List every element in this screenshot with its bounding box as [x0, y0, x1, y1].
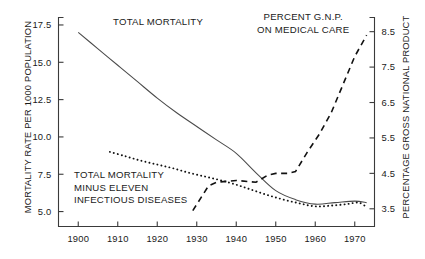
bottom-tick-label: 1940: [225, 233, 247, 244]
right-tick-label: 7.5: [382, 61, 396, 72]
annotation-mortality-minus-infectious: TOTAL MORTALITY MINUS ELEVEN INFECTIOUS …: [74, 169, 188, 207]
right-axis: 3.54.55.56.57.58.5: [370, 18, 396, 227]
left-axis-spine: [59, 18, 64, 227]
left-tick-label: 15.0: [32, 57, 51, 68]
bottom-tick-label: 1920: [146, 233, 168, 244]
bottom-tick-label: 1930: [186, 233, 208, 244]
annotation-percent-gnp-line1: PERCENT G.N.P.: [257, 11, 349, 24]
left-tick-label: 5.0: [38, 206, 52, 217]
right-tick-label: 6.5: [382, 97, 396, 108]
bottom-tick-label: 1910: [107, 233, 129, 244]
series-line-2: [193, 35, 367, 210]
right-axis-ticks: [370, 32, 375, 209]
bottom-tick-label: 1950: [265, 233, 287, 244]
right-axis-title: PERCENTAGE GROSS NATIONAL PRODUCT: [401, 6, 411, 228]
right-axis-tick-labels: 3.54.55.56.57.58.5: [382, 26, 396, 214]
right-tick-label: 4.5: [382, 168, 396, 179]
left-axis: 5.07.510.012.515.017.5: [32, 18, 63, 227]
annotation-percent-gnp-line2: ON MEDICAL CARE: [257, 24, 349, 37]
annotation-minus-line1: TOTAL MORTALITY: [74, 169, 188, 182]
annotation-minus-line3: INFECTIOUS DISEASES: [74, 194, 188, 207]
left-tick-label: 17.5: [32, 19, 51, 30]
annotation-total-mortality: TOTAL MORTALITY: [113, 16, 203, 29]
bottom-axis-tick-labels: 19001910192019301940195019601970: [67, 233, 365, 244]
bottom-axis-ticks: [78, 222, 355, 227]
bottom-tick-label: 1960: [304, 233, 326, 244]
chart-figure: 5.07.510.012.515.017.5 3.54.55.56.57.58.…: [0, 0, 425, 259]
annotation-percent-gnp: PERCENT G.N.P. ON MEDICAL CARE: [257, 11, 349, 36]
left-axis-title: MORTALITY RATE PER 1000 POPULATION: [23, 12, 33, 222]
left-axis-tick-labels: 5.07.510.012.515.017.5: [32, 19, 51, 217]
right-tick-label: 5.5: [382, 132, 396, 143]
left-tick-label: 12.5: [32, 94, 51, 105]
annotation-minus-line2: MINUS ELEVEN: [74, 182, 188, 195]
chart-plot-area: 5.07.510.012.515.017.5 3.54.55.56.57.58.…: [0, 0, 425, 259]
right-tick-label: 8.5: [382, 26, 396, 37]
right-tick-label: 3.5: [382, 203, 396, 214]
left-axis-ticks: [59, 25, 64, 212]
bottom-tick-label: 1900: [67, 233, 89, 244]
right-axis-spine: [370, 18, 375, 227]
bottom-tick-label: 1970: [344, 233, 366, 244]
left-tick-label: 7.5: [38, 169, 52, 180]
left-tick-label: 10.0: [32, 131, 51, 142]
bottom-axis: 19001910192019301940195019601970: [59, 222, 375, 244]
